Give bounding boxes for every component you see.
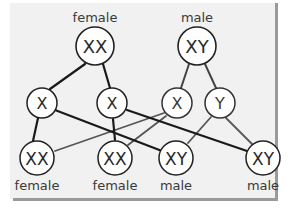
- father-node: XY: [178, 27, 216, 65]
- egg1-chromosome: X: [37, 94, 48, 113]
- egg2-node: X: [97, 88, 127, 118]
- sperm1-node: X: [162, 88, 192, 118]
- sperm2-node: Y: [205, 88, 235, 118]
- child4-genotype: XY: [252, 149, 275, 169]
- sperm2-chromosome: Y: [214, 94, 225, 113]
- egg1-node: X: [27, 88, 57, 118]
- child2-label: female: [93, 178, 138, 193]
- father-label: male: [181, 10, 213, 25]
- child1-genotype: XX: [25, 149, 49, 169]
- child4-label: male: [247, 178, 279, 193]
- child1-node: XX: [20, 141, 54, 175]
- child3-node: XY: [159, 141, 193, 175]
- sperm1-chromosome: X: [172, 94, 183, 113]
- child3-genotype: XY: [165, 149, 188, 169]
- panel-border-right: [275, 3, 278, 201]
- child3-label: male: [160, 178, 192, 193]
- egg2-chromosome: X: [107, 94, 118, 113]
- father-genotype: XY: [185, 36, 209, 57]
- child4-node: XY: [246, 141, 280, 175]
- child2-genotype: XX: [103, 149, 127, 169]
- inheritance-diagram: female male XX XY X X X Y: [0, 0, 290, 215]
- panel-border-bottom: [13, 198, 278, 201]
- mother-node: XX: [76, 27, 114, 65]
- mother-label: female: [73, 10, 118, 25]
- mother-genotype: XX: [83, 36, 108, 57]
- child2-node: XX: [98, 141, 132, 175]
- child1-label: female: [15, 178, 60, 193]
